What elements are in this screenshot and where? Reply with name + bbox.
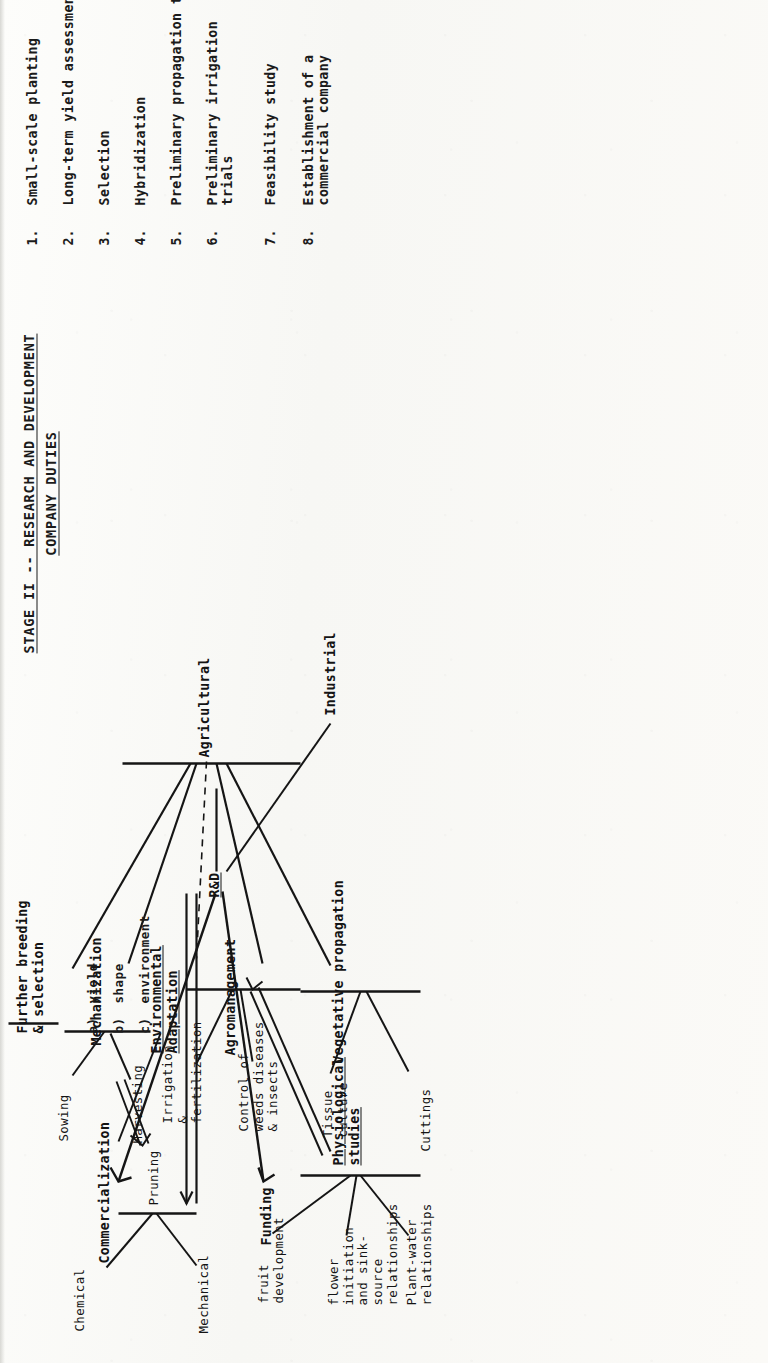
node-pruning[interactable]: Pruning: [146, 1150, 161, 1205]
checklist-item-label[interactable]: Feasibility study: [262, 62, 277, 205]
node-vegetative-propagation[interactable]: Vegetative propagation: [330, 880, 346, 1063]
node-agricultural[interactable]: Agricultural: [196, 657, 212, 757]
checklist-item-label[interactable]: Preliminary irrigation trials: [204, 20, 234, 205]
criterion-c-key: c): [136, 1017, 151, 1033]
checklist-item-label[interactable]: Establishment of a commercial company: [300, 54, 330, 205]
criterion-b-key: b): [110, 1017, 125, 1033]
checklist-number: 6.: [204, 229, 219, 245]
checklist-number: 7.: [262, 229, 277, 245]
node-commercialization[interactable]: Commercialization: [96, 1121, 112, 1263]
node-sowing[interactable]: Sowing: [56, 1094, 71, 1141]
node-further-breeding-selection[interactable]: Further breeding & selection: [14, 900, 45, 1033]
checklist-number: 1.: [24, 229, 39, 245]
node-industrial[interactable]: Industrial: [322, 632, 338, 715]
node-flower-initiation-sink-source[interactable]: flower initiation and sink- source relat…: [326, 1203, 399, 1305]
checklist-item-label[interactable]: Hybridization: [132, 96, 147, 205]
node-control-weeds-diseases-insects[interactable]: Control of weeds diseases & insects: [236, 1021, 280, 1131]
connector-lines: [0, 0, 768, 1363]
node-rnd[interactable]: R&D: [206, 872, 222, 897]
node-plant-water-relationships[interactable]: Plant-water relationships: [404, 1203, 433, 1305]
checklist-item-label[interactable]: Preliminary propagation trials: [168, 0, 183, 205]
node-pruning-chemical[interactable]: Chemical: [72, 1268, 87, 1331]
node-cuttings[interactable]: Cuttings: [418, 1088, 433, 1151]
criterion-b-label[interactable]: shape: [110, 963, 125, 1003]
checklist-item-label[interactable]: Small-scale planting: [24, 37, 39, 205]
checklist-number: 4.: [132, 229, 147, 245]
node-physiological-studies[interactable]: Physiological studies: [330, 1057, 361, 1165]
checklist-item-label[interactable]: Selection: [96, 129, 111, 205]
checklist-number: 5.: [168, 229, 183, 245]
node-pruning-mechanical[interactable]: Mechanical: [196, 1254, 211, 1333]
page-title-line1: STAGE II -- RESEARCH AND DEVELOPMENT: [20, 303, 36, 683]
criterion-a-label[interactable]: yield: [84, 963, 99, 1003]
checklist-number: 8.: [300, 229, 315, 245]
rotated-diagram-stage: STAGE II -- RESEARCH AND DEVELOPMENT COM…: [0, 0, 768, 1363]
node-agromanagement[interactable]: Agromanagement: [222, 938, 238, 1055]
checklist-number: 3.: [96, 229, 111, 245]
node-harvesting[interactable]: Harvesting: [130, 1064, 145, 1143]
checklist-item-label[interactable]: Long-term yield assessment: [60, 0, 75, 205]
criterion-c-label[interactable]: environment: [136, 915, 151, 1003]
criterion-a-key: a): [84, 1017, 99, 1033]
node-irrigation-fertilization[interactable]: Irrigation & fertilization: [160, 1021, 204, 1123]
page-title-line2: COMPANY DUTIES: [42, 303, 58, 683]
diagram-canvas: STAGE II -- RESEARCH AND DEVELOPMENT COM…: [0, 0, 768, 1363]
node-fruit-development[interactable]: fruit development: [256, 1217, 285, 1303]
checklist-number: 2.: [60, 229, 75, 245]
